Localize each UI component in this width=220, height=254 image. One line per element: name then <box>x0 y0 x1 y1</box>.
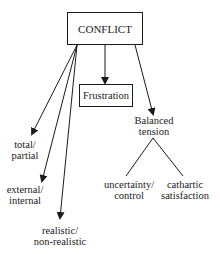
frustration-label: Frustration <box>83 90 129 101</box>
frustration-box: Frustration <box>79 84 133 107</box>
arrow-to-realistic <box>60 45 77 218</box>
arrow-to-balanced-tension <box>135 45 153 114</box>
realistic-label: realistic/ non-realistic <box>34 225 86 247</box>
cathartic-satisfaction-label: cathartic satisfaction <box>161 179 209 201</box>
arrow-to-external-internal <box>42 45 77 181</box>
balanced-tension-label: Balanced tension <box>134 115 173 137</box>
uncertainty-control-label: uncertainty/ control <box>104 179 154 201</box>
arrow-to-total-partial <box>32 45 77 134</box>
branch-to-cathartic <box>153 138 183 176</box>
conflict-label: CONFLICT <box>78 23 132 35</box>
conflict-box: CONFLICT <box>67 12 143 45</box>
total-partial-label: total/ partial <box>12 139 39 161</box>
branch-to-uncertainty <box>126 138 153 176</box>
external-internal-label: external/ internal <box>7 184 44 206</box>
